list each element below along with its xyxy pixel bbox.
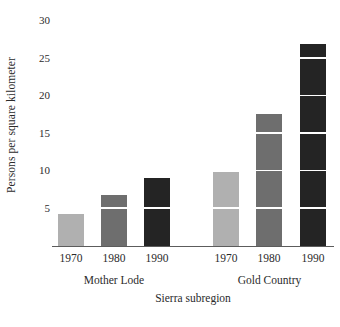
group-labels: Mother LodeGold Country (52, 272, 340, 290)
x-axis-tick-mother-lode-1980: 1980 (94, 250, 134, 266)
x-axis-tick-labels: 197019801990197019801990 (52, 250, 340, 268)
bar-segment-gridline (256, 207, 282, 208)
bar-mother-lode-1970 (58, 214, 84, 246)
y-axis-tick-30: 30 (24, 15, 50, 26)
y-axis-title: Persons per square kilometer (0, 0, 22, 250)
x-axis-tick-gold-country-1990: 1990 (293, 250, 333, 266)
y-axis-tick-15: 15 (24, 128, 50, 139)
x-axis-line (52, 246, 334, 247)
x-axis-tick-mother-lode-1970: 1970 (51, 250, 91, 266)
group-label-gold-country: Gold Country (215, 272, 325, 288)
x-axis-tick-gold-country-1980: 1980 (249, 250, 289, 266)
x-axis-tick-mother-lode-1990: 1990 (137, 250, 177, 266)
y-axis-tick-labels: 51015202530 (24, 0, 50, 260)
bar-chart-figure: Persons per square kilometer 51015202530… (0, 0, 340, 327)
figure-caption (0, 318, 340, 327)
bar-gold-country-1990 (300, 44, 326, 246)
bar-segment-gridline (300, 132, 326, 133)
bar-segment-gridline (300, 207, 326, 208)
x-axis-tick-gold-country-1970: 1970 (206, 250, 246, 266)
group-label-mother-lode: Mother Lode (59, 272, 169, 288)
y-axis-tick-25: 25 (24, 53, 50, 64)
plot-area (52, 0, 340, 248)
bar-segment-gridline (300, 95, 326, 96)
y-axis-tick-10: 10 (24, 165, 50, 176)
bar-segment-gridline (256, 132, 282, 133)
bar-mother-lode-1980 (101, 195, 127, 246)
bar-segment-gridline (300, 57, 326, 58)
bar-mother-lode-1990 (144, 178, 170, 246)
bar-segment-gridline (144, 207, 170, 208)
y-axis-tick-20: 20 (24, 90, 50, 101)
bar-gold-country-1970 (213, 172, 239, 246)
bar-gold-country-1980 (256, 114, 282, 246)
bar-segment-gridline (256, 170, 282, 171)
y-axis-tick-5: 5 (24, 203, 50, 214)
bar-segment-gridline (101, 207, 127, 208)
x-axis-title: Sierra subregion (52, 292, 334, 304)
bar-segment-gridline (213, 207, 239, 208)
bar-segment-gridline (300, 170, 326, 171)
y-axis-title-text: Persons per square kilometer (5, 57, 17, 193)
